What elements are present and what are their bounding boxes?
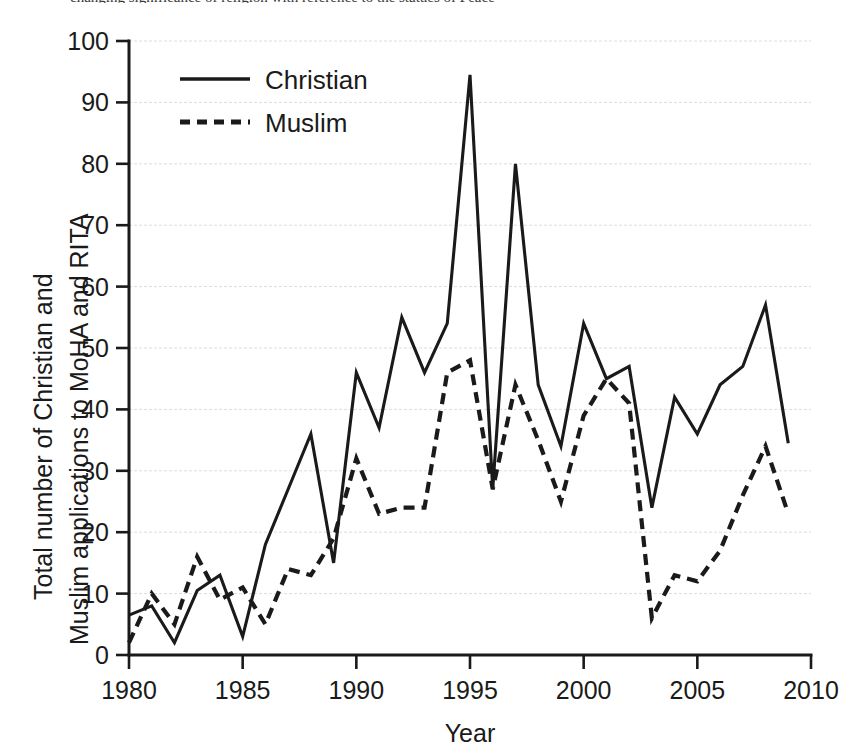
y-axis-title-line1: Total number of Christian and bbox=[29, 273, 57, 600]
x-tick-label: 2005 bbox=[670, 676, 726, 704]
legend-label-muslim: Muslim bbox=[265, 108, 347, 138]
x-tick-label: 2000 bbox=[556, 676, 612, 704]
y-tick-group bbox=[116, 41, 129, 655]
x-tick-label: 1980 bbox=[101, 676, 157, 704]
x-tick-label: 1985 bbox=[215, 676, 271, 704]
x-axis-title: Year bbox=[445, 719, 496, 747]
chart-legend: Christian Muslim bbox=[180, 65, 368, 138]
x-tick-label: 1990 bbox=[329, 676, 385, 704]
y-tick-label: 80 bbox=[81, 150, 109, 178]
truncated-caption: changing significance of religion with r… bbox=[70, 0, 830, 3]
x-tick-labels: 1980198519901995200020052010 bbox=[101, 676, 839, 704]
x-tick-label: 1995 bbox=[442, 676, 498, 704]
x-tick-group bbox=[129, 655, 811, 669]
y-axis-title: Total number of Christian and Muslim app… bbox=[29, 213, 93, 645]
y-tick-label: 100 bbox=[67, 27, 109, 55]
y-axis-title-line2: Muslim applications to MoHA and RITA bbox=[65, 213, 93, 645]
x-tick-label: 2010 bbox=[783, 676, 839, 704]
legend-label-christian: Christian bbox=[265, 65, 368, 95]
y-tick-label: 90 bbox=[81, 88, 109, 116]
line-chart: 0102030405060708090100 19801985199019952… bbox=[0, 0, 855, 756]
y-tick-label: 0 bbox=[95, 641, 109, 669]
series-line-christian bbox=[129, 75, 788, 643]
figure-container: changing significance of religion with r… bbox=[0, 0, 855, 756]
